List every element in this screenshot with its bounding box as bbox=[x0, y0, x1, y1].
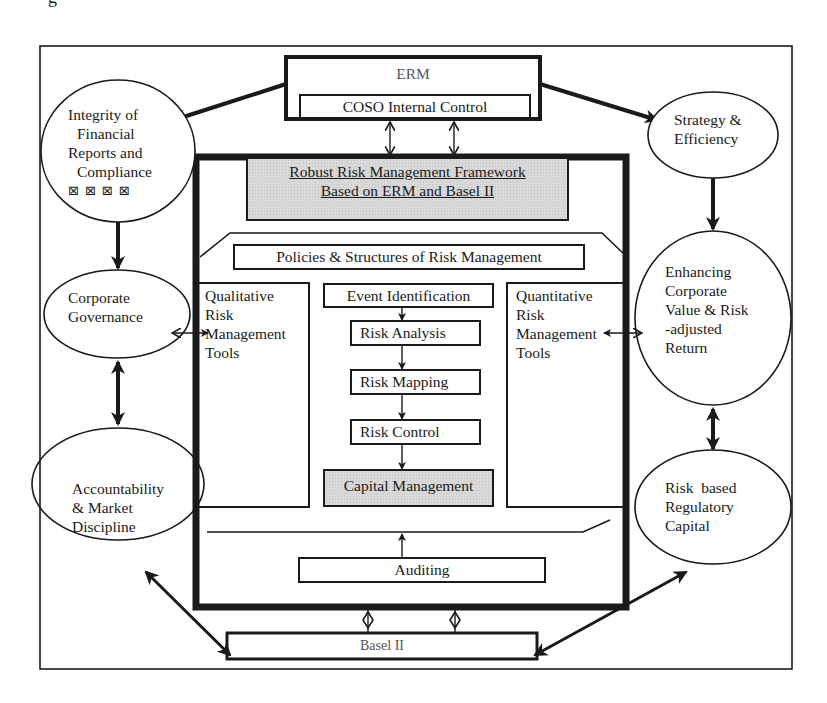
framework-title-line2: Based on ERM and Basel II bbox=[248, 181, 567, 200]
regulatory-line: Risk based bbox=[665, 478, 736, 497]
auditing-box: Auditing bbox=[298, 557, 546, 583]
step-risk-mapping: Risk Mapping bbox=[350, 369, 481, 395]
enhancing-line: Corporate bbox=[665, 281, 749, 300]
integrity-text: Integrity of Financial Reports and Compl… bbox=[68, 105, 152, 181]
policies-box: Policies & Structures of Risk Management bbox=[233, 244, 585, 270]
governance-text: Corporate Governance bbox=[68, 288, 143, 326]
quantitative-line: Quantitative bbox=[508, 284, 623, 305]
integrity-line: Reports and bbox=[68, 143, 152, 162]
accountability-line: Discipline bbox=[72, 517, 164, 536]
basel-label: Basel II bbox=[229, 636, 535, 655]
enhancing-text: Enhancing Corporate Value & Risk -adjust… bbox=[665, 262, 749, 357]
step-label: Capital Management bbox=[344, 477, 474, 494]
framework-title-box: Robust Risk Management Framework Based o… bbox=[246, 159, 569, 221]
quantitative-line: Tools bbox=[508, 343, 623, 362]
regulatory-text: Risk based Regulatory Capital bbox=[665, 478, 736, 535]
regulatory-line: Capital bbox=[665, 516, 736, 535]
accountability-line: & Market bbox=[72, 498, 164, 517]
accountability-line: Accountability bbox=[72, 479, 164, 498]
auditing-label: Auditing bbox=[394, 561, 449, 578]
integrity-line: Financial bbox=[68, 124, 152, 143]
strategy-text: Strategy & Efficiency bbox=[674, 110, 742, 148]
enhancing-line: Enhancing bbox=[665, 262, 749, 281]
qualitative-tools-box: Qualitative Risk Management Tools bbox=[199, 282, 310, 508]
integrity-line: Integrity of bbox=[68, 105, 152, 124]
strategy-line: Strategy & bbox=[674, 110, 742, 129]
missing-glyph-icon: ⊠⊠⊠⊠ bbox=[68, 183, 136, 198]
step-risk-analysis: Risk Analysis bbox=[350, 320, 481, 346]
erm-basel-framework-diagram: g ERM COSO Internal Control Robust Risk … bbox=[0, 0, 827, 703]
qualitative-line: Tools bbox=[199, 343, 308, 362]
erm-label: ERM bbox=[288, 64, 538, 83]
governance-line: Governance bbox=[68, 307, 143, 326]
step-label: Event Identification bbox=[347, 287, 471, 304]
integrity-line: Compliance bbox=[68, 162, 152, 181]
quantitative-tools-box: Quantitative Risk Management Tools bbox=[506, 282, 623, 508]
accountability-text: Accountability & Market Discipline bbox=[72, 479, 164, 536]
policies-label: Policies & Structures of Risk Management bbox=[276, 248, 542, 265]
quantitative-line: Risk bbox=[508, 305, 623, 324]
enhancing-line: Return bbox=[665, 338, 749, 357]
step-event-identification: Event Identification bbox=[323, 283, 494, 308]
step-label: Risk Control bbox=[352, 423, 440, 440]
quantitative-line: Management bbox=[508, 324, 623, 343]
governance-line: Corporate bbox=[68, 288, 143, 307]
step-risk-control: Risk Control bbox=[350, 419, 481, 445]
enhancing-line: Value & Risk bbox=[665, 300, 749, 319]
regulatory-line: Regulatory bbox=[665, 497, 736, 516]
qualitative-line: Qualitative bbox=[199, 284, 308, 305]
qualitative-line: Management bbox=[199, 324, 308, 343]
caption-fragment: g bbox=[48, 0, 57, 7]
coso-box: COSO Internal Control bbox=[299, 94, 531, 119]
coso-label: COSO Internal Control bbox=[343, 98, 488, 115]
enhancing-line: -adjusted bbox=[665, 319, 749, 338]
strategy-line: Efficiency bbox=[674, 129, 742, 148]
step-capital-management: Capital Management bbox=[323, 469, 494, 507]
step-label: Risk Analysis bbox=[352, 324, 446, 341]
qualitative-line: Risk bbox=[199, 305, 308, 324]
framework-title-line1: Robust Risk Management Framework bbox=[248, 159, 567, 181]
step-label: Risk Mapping bbox=[352, 373, 448, 390]
